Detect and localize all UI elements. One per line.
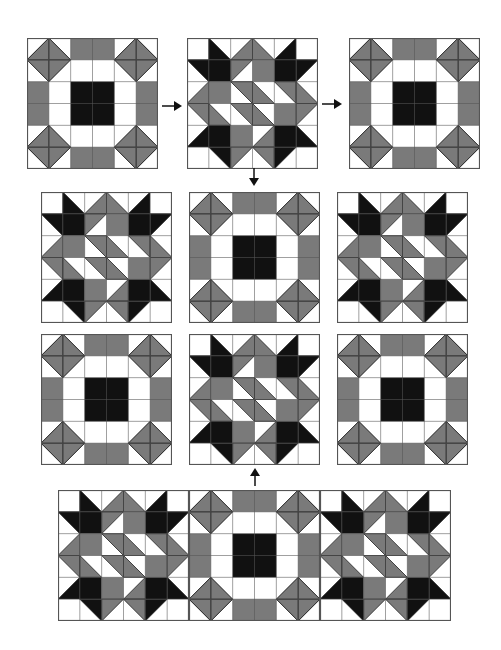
square-frame-quilt-block: [189, 490, 320, 621]
square-frame-quilt-block: [337, 334, 468, 465]
square-frame-quilt-block: [349, 38, 480, 169]
arrow-right-icon: [162, 97, 182, 115]
star-quilt-block: [41, 192, 172, 323]
arrow-up-icon: [250, 468, 260, 490]
arrow-right-icon: [322, 95, 342, 113]
star-quilt-block: [337, 192, 468, 323]
star-quilt-block: [189, 334, 320, 465]
square-frame-quilt-block: [41, 334, 172, 465]
star-quilt-block: [187, 38, 318, 169]
square-frame-quilt-block: [27, 38, 158, 169]
star-quilt-block: [320, 490, 451, 621]
square-frame-quilt-block: [189, 192, 320, 323]
arrow-down-icon: [249, 168, 259, 190]
star-quilt-block: [58, 490, 189, 621]
